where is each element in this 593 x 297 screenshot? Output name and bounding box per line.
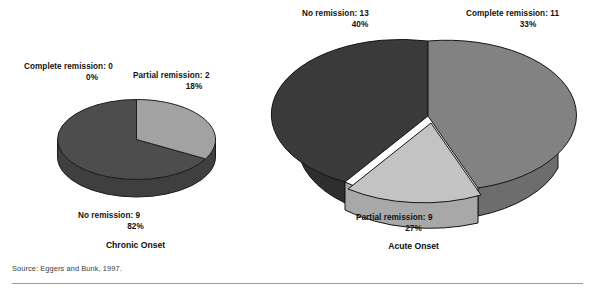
label-text: Partial remission: 2 xyxy=(133,71,210,80)
label-text: No remission: 13 xyxy=(302,9,369,18)
label-acute-complete-remission: Complete remission: 11 33% xyxy=(466,9,590,30)
pie-chart-acute-onset: No remission: 13 40% Complete remission:… xyxy=(288,0,593,250)
label-text: No remission: 9 xyxy=(78,211,140,220)
caption-chronic-onset: Chronic Onset xyxy=(78,240,193,250)
label-acute-no-remission: No remission: 13 40% xyxy=(302,9,418,30)
pie-chart-chronic-onset: Complete remission: 0 0% Partial remissi… xyxy=(0,0,280,250)
label-text: Partial remission: 9 xyxy=(356,213,433,222)
bottom-divider xyxy=(12,283,583,284)
label-percent: 40% xyxy=(302,20,418,31)
label-chronic-no-remission: No remission: 9 82% xyxy=(78,211,193,232)
label-text: Complete remission: 11 xyxy=(466,9,559,18)
label-acute-partial-remission: Partial remission: 9 27% xyxy=(356,213,471,234)
label-percent: 27% xyxy=(356,224,471,235)
label-percent: 82% xyxy=(78,222,193,233)
caption-acute-onset: Acute Onset xyxy=(356,241,471,251)
label-percent: 33% xyxy=(466,20,590,31)
figure-container: Complete remission: 0 0% Partial remissi… xyxy=(0,0,593,297)
source-note: Source: Eggers and Bunk, 1997. xyxy=(12,264,122,273)
label-text: Complete remission: 0 xyxy=(24,62,113,71)
label-chronic-partial-remission: Partial remission: 2 18% xyxy=(133,71,255,92)
label-percent: 18% xyxy=(133,82,255,93)
